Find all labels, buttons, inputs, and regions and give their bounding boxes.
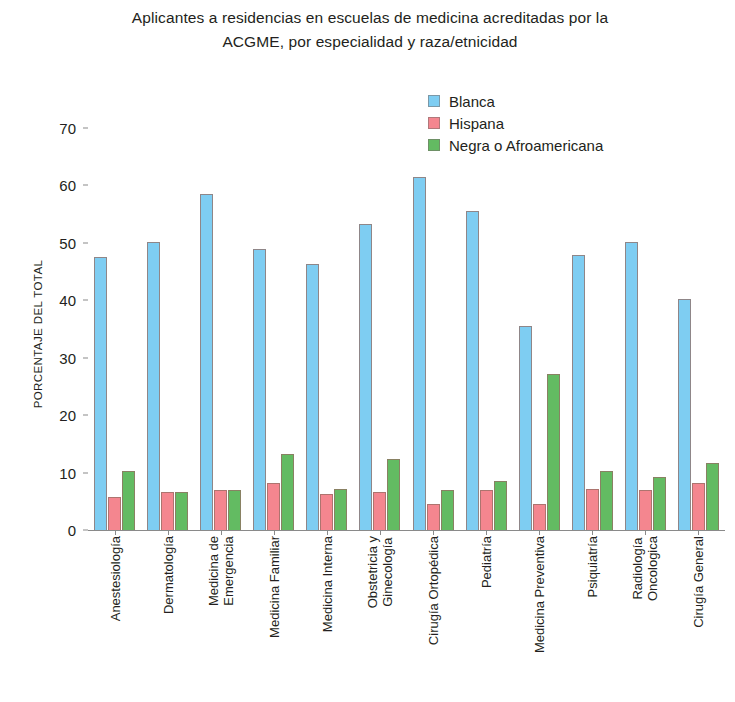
bar-blanca — [413, 177, 426, 530]
x-tick-label: Medicina Preventiva — [532, 536, 547, 653]
x-tick-label-line-2: Emergencia — [221, 536, 236, 606]
y-tick-label: 50 — [59, 234, 76, 251]
bar-group — [300, 128, 353, 530]
x-tick-label: Anestesiología — [107, 536, 122, 621]
bar-hispana — [267, 483, 280, 530]
x-tick-mark — [645, 530, 646, 535]
x-tick-mark — [327, 530, 328, 535]
x-tick-mark — [168, 530, 169, 535]
x-tick-label-line-1: Dermatología — [160, 536, 175, 614]
bar-blanca — [625, 242, 638, 530]
bar-blanca — [94, 257, 107, 530]
bar-hispana — [373, 492, 386, 530]
bar-group — [460, 128, 513, 530]
x-tick-label-line-1: Medicina de — [206, 536, 221, 606]
bar-negra — [175, 492, 188, 530]
bar-negra — [600, 471, 613, 530]
x-tick-label-line-1: Cirugía General — [691, 536, 706, 628]
x-axis-line — [88, 530, 725, 531]
x-tick-label: Cirugía Ortopédica — [426, 536, 441, 645]
bar-group — [247, 128, 300, 530]
bar-hispana — [480, 490, 493, 530]
x-label-cell: Medicina Interna — [300, 536, 353, 696]
y-axis-label: PORCENTAJE DEL TOTAL — [32, 234, 44, 434]
x-label-cell: Cirugía General — [672, 536, 725, 696]
x-label-cell: Medicina deEmergencia — [194, 536, 247, 696]
x-tick-label: Obstetricia yGinecología — [365, 536, 395, 608]
y-tick-label: 60 — [59, 177, 76, 194]
bar-blanca — [572, 255, 585, 530]
x-tick-mark — [274, 530, 275, 535]
bar-negra — [228, 490, 241, 530]
y-tick-label: 10 — [59, 464, 76, 481]
x-tick-label: Medicina Familiar — [266, 536, 281, 638]
legend-label-blanca: Blanca — [449, 93, 495, 110]
bar-group — [406, 128, 459, 530]
x-tick-mark — [221, 530, 222, 535]
bar-blanca — [359, 224, 372, 530]
bar-hispana — [161, 492, 174, 530]
chart-figure: Aplicantes a residencias en escuelas de … — [0, 0, 735, 702]
x-tick-mark — [115, 530, 116, 535]
bar-negra — [387, 459, 400, 530]
chart-title-line-1: Aplicantes a residencias en escuelas de … — [60, 6, 680, 30]
bar-hispana — [214, 490, 227, 530]
bar-negra — [334, 489, 347, 530]
x-tick-mark — [380, 530, 381, 535]
y-tick-label: 40 — [59, 292, 76, 309]
x-tick-label: Medicina Interna — [319, 536, 334, 632]
x-tick-label-line-1: Pediatría — [479, 536, 494, 588]
y-tick-label: 0 — [68, 522, 76, 539]
bar-group — [619, 128, 672, 530]
x-axis-labels: AnestesiologíaDermatologíaMedicina deEme… — [88, 536, 725, 696]
bar-hispana — [586, 489, 599, 530]
x-tick-label-line-1: Medicina Preventiva — [532, 536, 547, 653]
x-label-cell: Medicina Familiar — [247, 536, 300, 696]
x-tick-label-line-1: Radiología — [630, 537, 645, 599]
x-tick-label: Dermatología — [160, 536, 175, 614]
x-label-cell: Cirugía Ortopédica — [406, 536, 459, 696]
bar-hispana — [320, 494, 333, 530]
x-tick-label-line-1: Cirugía Ortopédica — [426, 536, 441, 645]
bar-negra — [547, 374, 560, 530]
bar-hispana — [533, 504, 546, 530]
x-tick-mark — [486, 530, 487, 535]
bar-blanca — [519, 326, 532, 530]
bar-groups — [88, 128, 725, 530]
x-tick-label-line-1: Psiquiatría — [585, 536, 600, 597]
x-tick-label: RadiologíaOncologica — [630, 536, 660, 601]
bar-group — [672, 128, 725, 530]
x-label-cell: Medicina Preventiva — [513, 536, 566, 696]
x-label-cell: Pediatría — [460, 536, 513, 696]
bar-group — [141, 128, 194, 530]
x-tick-label-line-1: Medicina Interna — [319, 536, 334, 632]
bar-hispana — [692, 483, 705, 530]
legend-item-blanca: Blanca — [428, 90, 603, 112]
bar-negra — [706, 463, 719, 530]
x-tick-label-line-1: Obstetricia y — [365, 536, 380, 608]
chart-title-line-2: ACGME, por especialidad y raza/etnicidad — [60, 30, 680, 54]
bar-negra — [122, 471, 135, 530]
bar-negra — [281, 454, 294, 530]
legend-swatch-blanca — [428, 95, 440, 107]
x-label-cell: Dermatología — [141, 536, 194, 696]
x-tick-label-line-2: Oncologica — [645, 536, 660, 601]
bar-negra — [494, 481, 507, 530]
bar-group — [353, 128, 406, 530]
bar-hispana — [108, 497, 121, 530]
x-tick-mark — [539, 530, 540, 535]
x-label-cell: Psiquiatría — [566, 536, 619, 696]
bar-negra — [441, 490, 454, 530]
bar-blanca — [678, 299, 691, 530]
plot-area: 010203040506070 — [88, 128, 725, 530]
x-tick-mark — [698, 530, 699, 535]
x-tick-mark — [433, 530, 434, 535]
bar-group — [566, 128, 619, 530]
y-tick-label: 70 — [59, 120, 76, 137]
y-tick-label: 20 — [59, 407, 76, 424]
bar-hispana — [639, 490, 652, 530]
x-tick-label-line-1: Medicina Familiar — [266, 536, 281, 638]
bar-group — [88, 128, 141, 530]
x-label-cell: RadiologíaOncologica — [619, 536, 672, 696]
bar-blanca — [306, 264, 319, 530]
